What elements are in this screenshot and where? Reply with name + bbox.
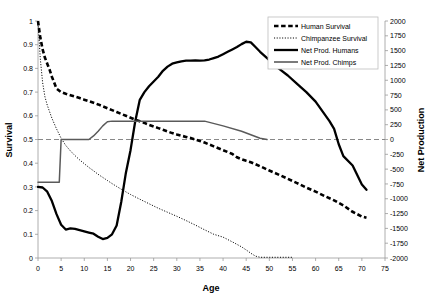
x-axis-tick-label: 15 [104,265,112,272]
y-axis-right-tick-label: -1500 [390,225,408,232]
y-axis-right-tick-label: 500 [390,106,402,113]
x-axis-tick-label: 35 [196,265,204,272]
x-axis-tick-label: 50 [265,265,273,272]
x-axis-tick-label: 70 [358,265,366,272]
y-axis-right-tick-label: -1000 [390,195,408,202]
y-axis-right: -2000-1750-1500-1250-1000-750-500-250025… [385,18,408,262]
legend-item-label: Chimpanzee Survival [301,35,368,43]
survival-net-production-chart: 00.10.20.30.40.50.60.70.80.91 -2000-1750… [0,0,435,302]
y-axis-right-tick-label: 1250 [390,62,406,69]
x-axis-tick-label: 65 [335,265,343,272]
y-axis-tick-label: 0.5 [23,136,33,143]
y-axis-right-tick-label: 1500 [390,47,406,54]
x-axis-tick-label: 55 [289,265,297,272]
x-axis-tick-label: 75 [381,265,389,272]
y-axis-right-tick-label: 1750 [390,32,406,39]
y-axis-right-tick-label: -250 [390,151,404,158]
y-axis-left: 00.10.20.30.40.50.60.70.80.91 [23,18,38,262]
y-axis-right-tick-label: -750 [390,181,404,188]
y-axis-left-title: Survival [4,122,14,157]
y-axis-right-tick-label: 2000 [390,18,406,25]
legend-item-label: Net Prod. Chimps [301,59,357,67]
y-axis-right-tick-label: 0 [390,136,394,143]
x-axis-tick-label: 5 [59,265,63,272]
y-axis-tick-label: 0.7 [23,89,33,96]
legend[interactable]: Human SurvivalChimpanzee SurvivalNet Pro… [268,17,378,69]
y-axis-tick-label: 0.2 [23,207,33,214]
y-axis-right-tick-label: 750 [390,92,402,99]
chart-container: 00.10.20.30.40.50.60.70.80.91 -2000-1750… [0,0,435,302]
y-axis-tick-label: 0.4 [23,160,33,167]
y-axis-tick-label: 0.8 [23,65,33,72]
y-axis-right-tick-label: -500 [390,166,404,173]
y-axis-right-tick-label: 1000 [390,77,406,84]
legend-item-label: Net Prod. Humans [301,47,359,54]
legend-item-label: Human Survival [301,23,351,30]
y-axis-right-tick-label: -2000 [390,255,408,262]
y-axis-tick-label: 0.9 [23,41,33,48]
y-axis-tick-label: 0.3 [23,184,33,191]
x-axis-tick-label: 10 [80,265,88,272]
y-axis-right-tick-label: 250 [390,121,402,128]
x-axis-tick-label: 25 [150,265,158,272]
x-axis-title: Age [202,283,219,293]
x-axis-tick-label: 0 [36,265,40,272]
x-axis-tick-label: 20 [127,265,135,272]
y-axis-right-title: Net Production [416,108,426,173]
y-axis-right-tick-label: -1250 [390,210,408,217]
y-axis-tick-label: 0 [29,255,33,262]
y-axis-tick-label: 0.1 [23,231,33,238]
x-axis-tick-label: 30 [173,265,181,272]
x-axis-tick-label: 45 [242,265,250,272]
x-axis-tick-label: 40 [219,265,227,272]
x-axis: 051015202530354045505560657075 [36,258,389,272]
y-axis-tick-label: 1 [29,18,33,25]
y-axis-tick-label: 0.6 [23,112,33,119]
x-axis-tick-label: 60 [312,265,320,272]
y-axis-right-tick-label: -1750 [390,240,408,247]
